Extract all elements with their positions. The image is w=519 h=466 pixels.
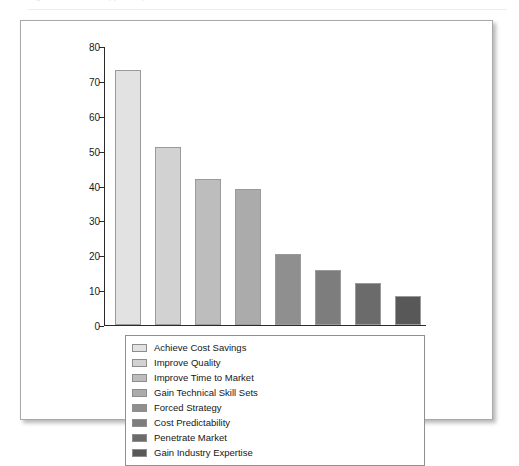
legend-item[interactable]: Forced Strategy bbox=[132, 400, 280, 415]
legend-column-left: Achieve Cost SavingsImprove QualityImpro… bbox=[132, 340, 280, 400]
legend-swatch-icon bbox=[132, 344, 147, 352]
chart-legend: Achieve Cost SavingsImprove QualityImpro… bbox=[125, 335, 425, 466]
caption-divider bbox=[28, 9, 507, 10]
x-axis-line bbox=[104, 325, 426, 326]
y-tick-label: 10 bbox=[89, 286, 100, 297]
y-tick-label: 20 bbox=[89, 251, 100, 262]
cropped-caption-text: Figure — faded cropped caption line bbox=[28, 0, 180, 1]
y-tick-label: 80 bbox=[89, 42, 100, 53]
bar bbox=[195, 179, 221, 325]
y-tick-label: 60 bbox=[89, 111, 100, 122]
legend-item-label: Forced Strategy bbox=[154, 403, 222, 413]
legend-item[interactable]: Penetrate Market bbox=[132, 430, 280, 445]
bar bbox=[155, 147, 181, 325]
y-tick-label: 0 bbox=[94, 321, 100, 332]
legend-item-label: Improve Quality bbox=[154, 358, 221, 368]
legend-swatch-icon bbox=[132, 434, 147, 442]
legend-item-label: Penetrate Market bbox=[154, 433, 227, 443]
legend-item-label: Gain Technical Skill Sets bbox=[154, 388, 258, 398]
y-tick-label: 30 bbox=[89, 216, 100, 227]
legend-item[interactable]: Cost Predictability bbox=[132, 415, 280, 430]
bar bbox=[275, 254, 301, 325]
legend-item-label: Improve Time to Market bbox=[154, 373, 254, 383]
bar bbox=[315, 270, 341, 325]
legend-swatch-icon bbox=[132, 404, 147, 412]
bar bbox=[115, 70, 141, 325]
chart-figure-frame: 01020304050607080 Achieve Cost SavingsIm… bbox=[20, 20, 493, 420]
legend-swatch-icon bbox=[132, 359, 147, 367]
cropped-caption-strip: Figure — faded cropped caption line bbox=[0, 0, 519, 13]
legend-item[interactable]: Achieve Cost Savings bbox=[132, 340, 280, 355]
legend-item[interactable]: Improve Time to Market bbox=[132, 370, 280, 385]
legend-item[interactable]: Gain Industry Expertise bbox=[132, 445, 280, 460]
legend-swatch-icon bbox=[132, 374, 147, 382]
legend-swatch-icon bbox=[132, 419, 147, 427]
y-tick-label: 50 bbox=[89, 146, 100, 157]
legend-item-label: Cost Predictability bbox=[154, 418, 230, 428]
legend-swatch-icon bbox=[132, 449, 147, 457]
legend-item[interactable]: Improve Quality bbox=[132, 355, 280, 370]
y-tick-label: 70 bbox=[89, 76, 100, 87]
bar bbox=[395, 296, 421, 325]
legend-swatch-icon bbox=[132, 389, 147, 397]
legend-item-label: Achieve Cost Savings bbox=[154, 343, 246, 353]
legend-item[interactable]: Gain Technical Skill Sets bbox=[132, 385, 280, 400]
y-axis-line bbox=[104, 47, 105, 326]
legend-item-label: Gain Industry Expertise bbox=[154, 448, 253, 458]
bar bbox=[235, 189, 261, 325]
bar-chart-plot-area: 01020304050607080 bbox=[104, 47, 424, 326]
legend-column-right: Forced StrategyCost PredictabilityPenetr… bbox=[132, 400, 280, 460]
bar bbox=[355, 283, 381, 325]
y-tick-label: 40 bbox=[89, 181, 100, 192]
